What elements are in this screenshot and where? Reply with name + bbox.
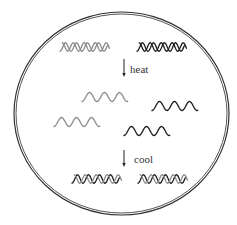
- strand-a: [138, 175, 185, 183]
- strand-b: [140, 175, 187, 183]
- container-inner-ring: [16, 14, 227, 213]
- strand-b: [62, 43, 109, 51]
- single-strand-path: [54, 118, 100, 127]
- single-strand-black-1: [152, 102, 198, 111]
- renatured-helix-2: [138, 175, 188, 183]
- strand-a: [137, 43, 184, 51]
- container-outer-ring: [14, 12, 229, 215]
- dna-diagram: heat cool: [0, 0, 237, 225]
- renatured-helix-1: [72, 175, 122, 183]
- heat-label: heat: [130, 63, 148, 75]
- single-strand-path: [124, 127, 170, 136]
- strand-b: [74, 175, 121, 183]
- single-strand-gray-1: [82, 93, 128, 102]
- strand-a: [72, 175, 119, 183]
- single-strand-gray-2: [54, 118, 100, 127]
- initial-helix-gray: [60, 43, 110, 51]
- single-strand-black-2: [124, 127, 170, 136]
- initial-helix-black: [137, 43, 187, 51]
- cool-label: cool: [134, 153, 153, 165]
- single-strand-path: [152, 102, 198, 111]
- strand-b: [139, 43, 186, 51]
- cool-arrow: [122, 150, 125, 167]
- single-strand-path: [82, 93, 128, 102]
- strand-a: [60, 43, 107, 51]
- heat-arrow: [122, 59, 125, 77]
